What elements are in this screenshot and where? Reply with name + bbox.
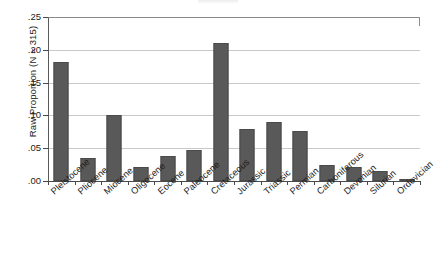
x-tick-mark: [234, 181, 235, 185]
y-tick-label: .15: [0, 77, 41, 88]
x-tick-mark: [393, 181, 394, 185]
x-tick-mark: [287, 181, 288, 185]
bar-slot: [101, 17, 128, 181]
x-tick-mark: [75, 181, 76, 185]
bar-slot: [234, 17, 261, 181]
x-tick-mark: [261, 181, 262, 185]
bar-slot: [207, 17, 234, 181]
cropped-title-remnant: [198, 0, 238, 4]
x-tick-mark: [367, 181, 368, 185]
x-tick-mark: [420, 181, 421, 185]
x-tick-mark: [101, 181, 102, 185]
x-tick-mark: [48, 181, 49, 185]
x-tick-mark: [154, 181, 155, 185]
bar-slot: [314, 17, 341, 181]
x-tick-mark: [340, 181, 341, 185]
x-tick-mark: [128, 181, 129, 185]
bar-slot: [128, 17, 155, 181]
y-tick-label: .00: [0, 175, 41, 186]
x-tick-mark: [207, 181, 208, 185]
bar-slot: [393, 17, 420, 181]
bar-slot: [75, 17, 102, 181]
y-tick-label: .05: [0, 142, 41, 153]
bar: [54, 62, 69, 181]
bar-slot: [154, 17, 181, 181]
bar-slot: [367, 17, 394, 181]
bar-slot: [287, 17, 314, 181]
bar-slot: [181, 17, 208, 181]
y-tick-label: .20: [0, 44, 41, 55]
x-tick-mark: [314, 181, 315, 185]
y-tick-label: .10: [0, 109, 41, 120]
x-tick-mark: [181, 181, 182, 185]
y-tick-label: .25: [0, 11, 41, 22]
bar-slot: [261, 17, 288, 181]
bar-slot: [48, 17, 75, 181]
